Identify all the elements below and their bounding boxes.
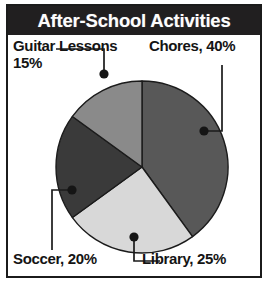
chart-figure: After-School Activities xyxy=(6,4,262,278)
leader-dot-soccer xyxy=(67,185,76,194)
chart-title-bar: After-School Activities xyxy=(8,6,260,35)
pie-label-chores: Chores, 40% xyxy=(149,37,235,54)
pie-label-guitar-lessons-value: 15% xyxy=(13,54,117,71)
leader-dot-library xyxy=(129,232,138,241)
pie-chart xyxy=(8,35,260,276)
pie-label-library: Library, 25% xyxy=(142,250,226,267)
pie-slices xyxy=(56,81,228,253)
pie-label-guitar-lessons-name: Guitar Lessons xyxy=(13,37,117,54)
chart-plot-area: Guitar Lessons 15% Chores, 40% Soccer, 2… xyxy=(8,35,260,276)
pie-label-guitar-lessons: Guitar Lessons 15% xyxy=(13,37,117,71)
page-title: After-School Activities xyxy=(37,10,230,32)
pie-label-soccer: Soccer, 20% xyxy=(13,250,97,267)
leader-dot-chores xyxy=(199,126,208,135)
